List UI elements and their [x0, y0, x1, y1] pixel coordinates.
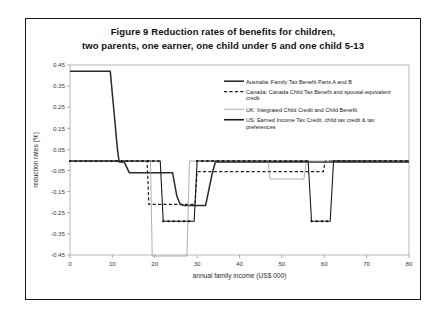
series-marker — [321, 220, 323, 222]
x-axis-title: annual family income (US$ 000) — [193, 272, 287, 280]
y-tick-label: -0.25 — [51, 209, 66, 216]
series-marker — [248, 160, 250, 162]
series-marker — [405, 160, 407, 162]
series-marker — [131, 160, 133, 162]
series-marker — [295, 160, 297, 162]
series-marker — [95, 160, 97, 162]
x-tick-label: 60 — [321, 260, 328, 267]
series-marker — [348, 160, 350, 162]
series-marker — [264, 160, 266, 162]
series-marker — [79, 160, 81, 162]
series-marker — [305, 160, 307, 162]
x-tick-label: 40 — [236, 260, 243, 267]
series-marker — [338, 160, 340, 162]
series-marker — [369, 160, 371, 162]
series-marker — [212, 160, 214, 162]
figure-title-line-1: Figure 9 Reduction rates of benefits for… — [26, 25, 420, 39]
series-marker — [253, 160, 255, 162]
series-marker — [243, 160, 245, 162]
y-tick-label: 0.05 — [53, 146, 66, 153]
series-marker — [269, 160, 271, 162]
legend-label-canada: credit — [246, 95, 260, 101]
series-marker — [152, 160, 154, 162]
series-marker — [326, 220, 328, 222]
series-marker — [147, 160, 149, 162]
figure-frame: Figure 9 Reduction rates of benefits for… — [25, 18, 421, 300]
series-marker — [390, 160, 392, 162]
series-marker — [285, 160, 287, 162]
series-marker — [173, 220, 175, 222]
legend-label-us: US: Earned Income Tax Credit, child tax … — [246, 117, 375, 123]
series-marker — [333, 160, 335, 162]
series-marker — [121, 160, 123, 162]
series-marker — [290, 160, 292, 162]
series-marker — [162, 220, 164, 222]
series-marker — [316, 220, 318, 222]
series-marker — [227, 160, 229, 162]
series-marker — [116, 160, 118, 162]
series-marker — [111, 160, 113, 162]
series-marker — [183, 220, 185, 222]
series-marker — [69, 160, 71, 162]
series-marker — [126, 160, 128, 162]
series-marker — [201, 160, 203, 162]
y-tick-label: -0.15 — [51, 188, 66, 195]
series-marker — [85, 160, 87, 162]
reduction-rates-chart: 0.450.350.250.150.05-0.05-0.15-0.25-0.35… — [26, 51, 419, 297]
series-marker — [300, 160, 302, 162]
series-markers-us — [69, 160, 407, 222]
y-tick-label: 0.45 — [53, 61, 66, 68]
series-marker — [196, 160, 198, 162]
y-tick-label: -0.35 — [51, 230, 66, 237]
y-tick-label: 0.15 — [53, 125, 66, 132]
series-marker — [395, 160, 397, 162]
series-marker — [142, 160, 144, 162]
chart-legend: Australia: Family Tax Benefit Parts A an… — [224, 79, 391, 130]
series-marker — [311, 220, 313, 222]
series-marker — [353, 160, 355, 162]
series-marker — [137, 160, 139, 162]
legend-label-australia: Australia: Family Tax Benefit Parts A an… — [246, 79, 352, 85]
series-marker — [74, 160, 76, 162]
series-marker — [222, 160, 224, 162]
x-tick-label: 10 — [109, 260, 116, 267]
series-line-us — [70, 161, 409, 221]
series-marker — [157, 160, 159, 162]
series-marker — [233, 160, 235, 162]
series-marker — [359, 160, 361, 162]
series-marker — [364, 160, 366, 162]
y-tick-label: -0.05 — [51, 167, 66, 174]
series-marker — [385, 160, 387, 162]
series-marker — [100, 160, 102, 162]
series-marker — [90, 160, 92, 162]
series-marker — [374, 160, 376, 162]
series-marker — [207, 160, 209, 162]
x-tick-label: 50 — [278, 260, 285, 267]
x-tick-label: 70 — [363, 260, 370, 267]
x-tick-label: 20 — [151, 260, 158, 267]
figure-title: Figure 9 Reduction rates of benefits for… — [26, 25, 420, 53]
series-marker — [379, 160, 381, 162]
series-marker — [238, 160, 240, 162]
series-marker — [105, 160, 107, 162]
y-tick-label: -0.45 — [51, 251, 66, 258]
y-tick-label: 0.25 — [53, 103, 66, 110]
x-tick-label: 0 — [68, 260, 72, 267]
series-marker — [217, 160, 219, 162]
series-marker — [167, 220, 169, 222]
legend-label-canada: Canada: Canada Child Tax Benefit and spo… — [246, 89, 391, 95]
series-marker — [259, 160, 261, 162]
x-tick-label: 80 — [406, 260, 413, 267]
x-tick-label: 30 — [194, 260, 201, 267]
series-line-uk — [70, 161, 409, 256]
legend-label-us: preferences — [246, 124, 276, 130]
series-marker — [178, 220, 180, 222]
series-marker — [188, 220, 190, 222]
series-marker — [279, 160, 281, 162]
series-marker — [400, 160, 402, 162]
series-marker — [274, 160, 276, 162]
legend-label-uk: UK: Integrated Child Credit and Child Be… — [246, 107, 357, 113]
series-marker — [343, 160, 345, 162]
series-line-canada — [70, 161, 409, 204]
y-axis-title: reduction rates (%) — [32, 132, 40, 188]
